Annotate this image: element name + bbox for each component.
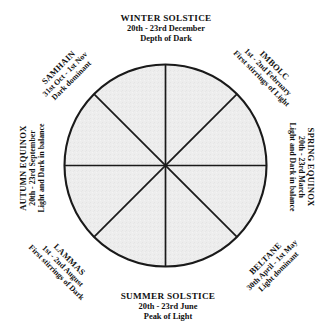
wheel-of-the-year-diagram: WINTER SOLSTICE 20th - 23rd December Dep…: [0, 0, 335, 335]
station-dates: 20th - 23rd June: [121, 302, 216, 312]
station-meaning: Light and Dark in balance: [37, 123, 46, 212]
station-meaning: Light and Dark in balance: [288, 122, 297, 211]
station-name: SPRING EQUINOX: [306, 122, 316, 211]
station-name: AUTUMN EQUINOX: [18, 123, 28, 212]
station-name: WINTER SOLSTICE: [120, 13, 211, 24]
station-dates: 20th - 23rd December: [120, 24, 211, 34]
station-meaning: Peak of Light: [121, 311, 216, 321]
station-dates: 20th - 23rd March: [297, 122, 306, 211]
station-name: SUMMER SOLSTICE: [121, 291, 216, 302]
station-meaning: Depth of Dark: [120, 33, 211, 43]
station-dates: 20th - 23rd September: [28, 123, 37, 212]
wheel-circle: [62, 62, 269, 269]
